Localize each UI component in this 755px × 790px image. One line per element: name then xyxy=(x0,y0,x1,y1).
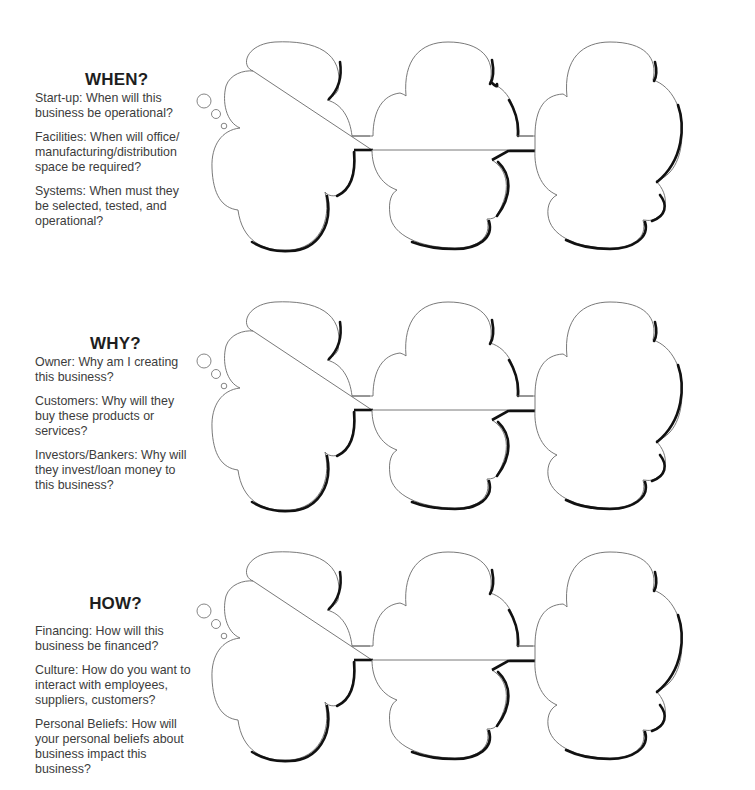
thought-cloud-3[interactable] xyxy=(535,552,682,759)
section-how: HOW? Financing: How will this business b… xyxy=(0,520,755,780)
cloud-connector-2 xyxy=(492,646,536,670)
thought-cloud-3[interactable] xyxy=(535,302,682,509)
thought-cloud-1[interactable] xyxy=(212,42,372,251)
thought-cloud-2[interactable] xyxy=(372,302,535,509)
section-when: WHEN? Start-up: When will this business … xyxy=(0,0,755,260)
thought-cloud-1[interactable] xyxy=(212,302,372,511)
thought-cloud-row xyxy=(0,0,755,260)
thought-cloud-row xyxy=(0,510,755,770)
section-why: WHY? Owner: Why am I creating this busin… xyxy=(0,260,755,520)
thought-bubbles-icon xyxy=(197,604,227,639)
thought-cloud-2[interactable] xyxy=(372,552,535,759)
thought-cloud-row xyxy=(0,260,755,520)
thought-cloud-2[interactable] xyxy=(372,42,535,249)
cloud-connector-2 xyxy=(492,396,536,420)
cloud-connector-2 xyxy=(492,136,536,160)
thought-cloud-1[interactable] xyxy=(212,552,372,761)
thought-cloud-3[interactable] xyxy=(535,42,682,249)
thought-bubbles-icon xyxy=(197,94,227,129)
thought-bubbles-icon xyxy=(197,354,227,389)
